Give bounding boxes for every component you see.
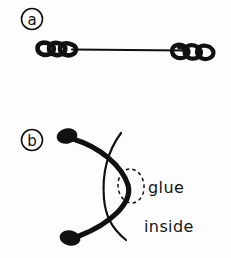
panel-a-label-text: a — [27, 11, 36, 29]
panel-b-thick-bowed-arc — [73, 139, 129, 236]
panel-a: a — [22, 9, 214, 60]
panel-b-glue-annotation: glue — [148, 178, 184, 197]
panel-a-right-coil — [172, 45, 213, 59]
panel-b-inside-annotation: inside — [144, 217, 194, 236]
panel-b-top-end-blob — [55, 126, 79, 145]
panel-a-straight-shaft — [72, 50, 186, 51]
panel-a-left-coil — [38, 43, 76, 56]
panel-b-label-text: b — [27, 132, 37, 150]
panel-b-label: b — [22, 130, 43, 151]
panel-b-bottom-end-blob — [58, 228, 82, 247]
panel-a-label: a — [22, 9, 43, 30]
figure-canvas: a b — [0, 0, 231, 258]
panel-b: b glue inside — [22, 126, 194, 247]
